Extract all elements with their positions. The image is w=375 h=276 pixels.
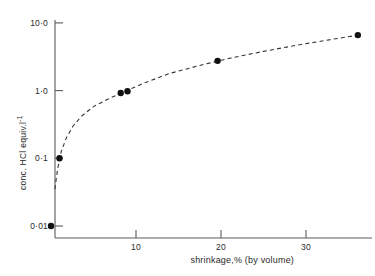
data-point-marker — [124, 88, 130, 94]
data-point-marker — [56, 155, 62, 161]
axis-lines — [55, 20, 372, 238]
y-axis-title-exponent: -1 — [16, 115, 23, 121]
y-axis-tick-label: 1·0 — [0, 86, 48, 96]
chart-figure: 0·010·11·010·0 102030 conc. HCl equiv.l-… — [0, 0, 375, 276]
x-axis-title: shrinkage,% (by volume) — [190, 255, 294, 265]
data-point-marker — [355, 32, 361, 38]
x-axis-tick-label: 20 — [216, 242, 226, 252]
x-axis-ticks — [136, 230, 306, 238]
fitted-curve — [55, 35, 361, 190]
data-points — [48, 32, 361, 229]
chart-plot-area — [0, 0, 375, 276]
y-axis-tick-label: 0·01 — [0, 221, 48, 231]
x-axis-tick-label: 30 — [301, 242, 311, 252]
data-point-marker — [118, 90, 124, 96]
y-axis-title: conc. HCl equiv.l-1 — [18, 115, 28, 190]
fitted-curve-path — [55, 35, 361, 190]
y-axis-tick-label: 10·0 — [0, 18, 48, 28]
x-axis-tick-label: 10 — [131, 242, 141, 252]
y-axis-ticks — [55, 23, 63, 226]
data-point-marker — [214, 58, 220, 64]
data-point-marker — [48, 223, 54, 229]
